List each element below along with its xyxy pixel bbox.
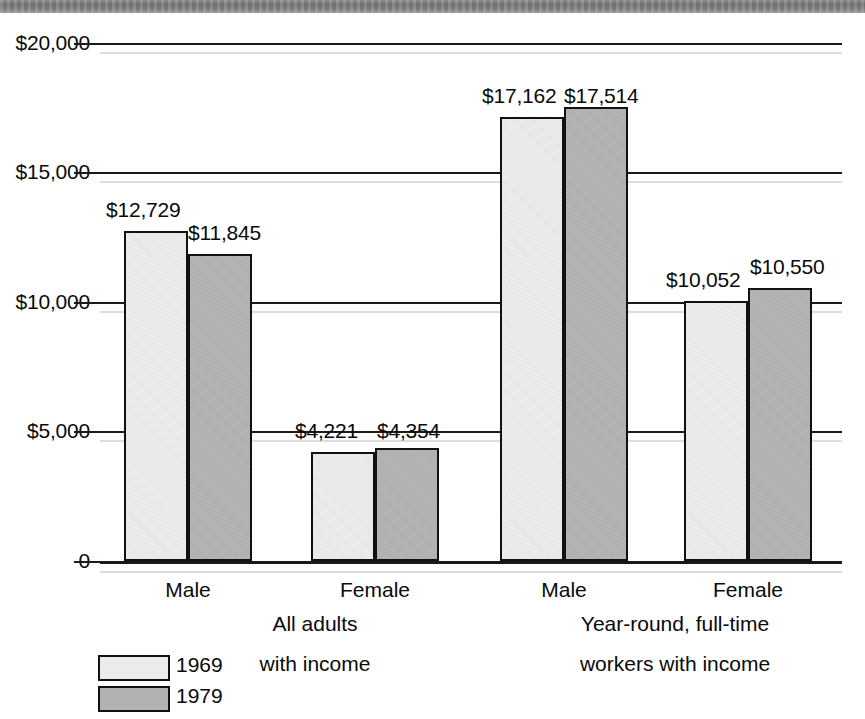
gridline-15000: [100, 172, 842, 174]
bar-full-time-female-1979[interactable]: [748, 288, 812, 561]
bar-value-full-time-male-1979: $17,514: [564, 84, 639, 108]
bar-all-adults-male-1979[interactable]: [188, 254, 252, 561]
bar-value-all-adults-male-1979: $11,845: [188, 221, 261, 245]
legend-label-1969: 1969: [176, 653, 223, 677]
group-label-all-adults-line1: All adults: [215, 605, 415, 643]
group-label-full-time-line1: Year-round, full-time: [545, 605, 805, 643]
legend-swatch-1969: [98, 655, 170, 681]
gridline-20000: [100, 43, 842, 45]
bar-value-full-time-female-1979: $10,550: [750, 255, 825, 279]
legend-swatch-1979: [98, 686, 170, 712]
chart-page: $20,000 $15,000 $10,000 $5,000 0 $12,729…: [0, 0, 865, 719]
category-label-all-adults-female: Female: [315, 578, 435, 602]
bar-all-adults-male-1969[interactable]: [124, 231, 188, 561]
category-label-full-time-male: Male: [504, 578, 624, 602]
bar-full-time-male-1969[interactable]: [500, 117, 564, 561]
bar-full-time-female-1969[interactable]: [684, 301, 748, 561]
bar-value-full-time-female-1969: $10,052: [666, 268, 741, 292]
category-label-full-time-female: Female: [688, 578, 808, 602]
group-label-all-adults-line2: with income: [215, 645, 415, 683]
plot-area: $12,729 $11,845 $4,221 $4,354 $17,162 $1…: [100, 43, 842, 561]
category-label-all-adults-male: Male: [128, 578, 248, 602]
bar-all-adults-female-1979[interactable]: [375, 448, 439, 561]
group-label-full-time-line2: workers with income: [545, 645, 805, 683]
bar-all-adults-female-1969[interactable]: [311, 452, 375, 561]
bar-value-all-adults-female-1969: $4,221: [295, 419, 358, 443]
legend-label-1979: 1979: [176, 684, 223, 708]
axis-baseline: [100, 561, 842, 564]
bar-value-all-adults-female-1979: $4,354: [377, 419, 440, 443]
bar-value-all-adults-male-1969: $12,729: [106, 198, 181, 222]
scan-artifact-band: [0, 0, 865, 13]
bar-value-full-time-male-1969: $17,162: [482, 84, 557, 108]
bar-full-time-male-1979[interactable]: [564, 107, 628, 561]
